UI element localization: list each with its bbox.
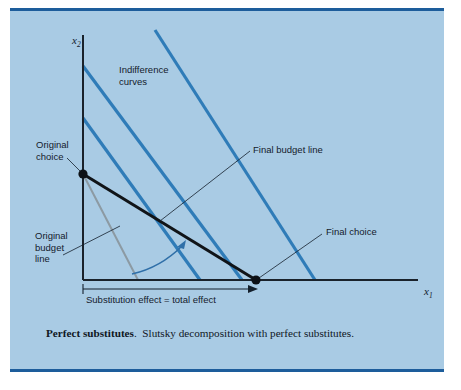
final-budget-line xyxy=(83,174,256,280)
figure-panel: x2 x1 Indifference curves Original choic… xyxy=(10,8,444,372)
slutsky-diagram xyxy=(10,8,444,372)
x-axis-label-subscript: 1 xyxy=(429,291,433,300)
final-choice-label: Final choice xyxy=(326,226,377,238)
figure-caption: Perfect substitutes. Slutsky decompositi… xyxy=(46,326,421,341)
original-budget-line-label: Original budget line xyxy=(35,230,68,265)
original-choice-label: Original choice xyxy=(36,139,69,162)
final-choice-point xyxy=(251,275,260,284)
indifference-curves-label: Indifference curves xyxy=(119,64,168,87)
leader-original-budget-line xyxy=(63,226,120,255)
rotation-arrow-icon xyxy=(132,246,182,274)
y-axis-label-subscript: 2 xyxy=(77,40,81,49)
figure-page: x2 x1 Indifference curves Original choic… xyxy=(0,0,461,390)
final-budget-line-label: Final budget line xyxy=(253,144,323,156)
substitution-effect-label: Substitution effect = total effect xyxy=(86,294,216,306)
x-axis-label: x1 xyxy=(424,285,433,300)
caption-title: Perfect substitutes xyxy=(46,327,134,339)
leader-original-choice xyxy=(67,158,80,171)
caption-text: Slutsky decomposition with perfect subst… xyxy=(142,327,354,339)
original-choice-point xyxy=(78,169,87,178)
y-axis-label: x2 xyxy=(72,34,81,49)
indifference-curve-1 xyxy=(83,66,242,280)
caption-period: . xyxy=(134,327,137,339)
substitution-effect-arrowhead-icon xyxy=(248,285,258,293)
